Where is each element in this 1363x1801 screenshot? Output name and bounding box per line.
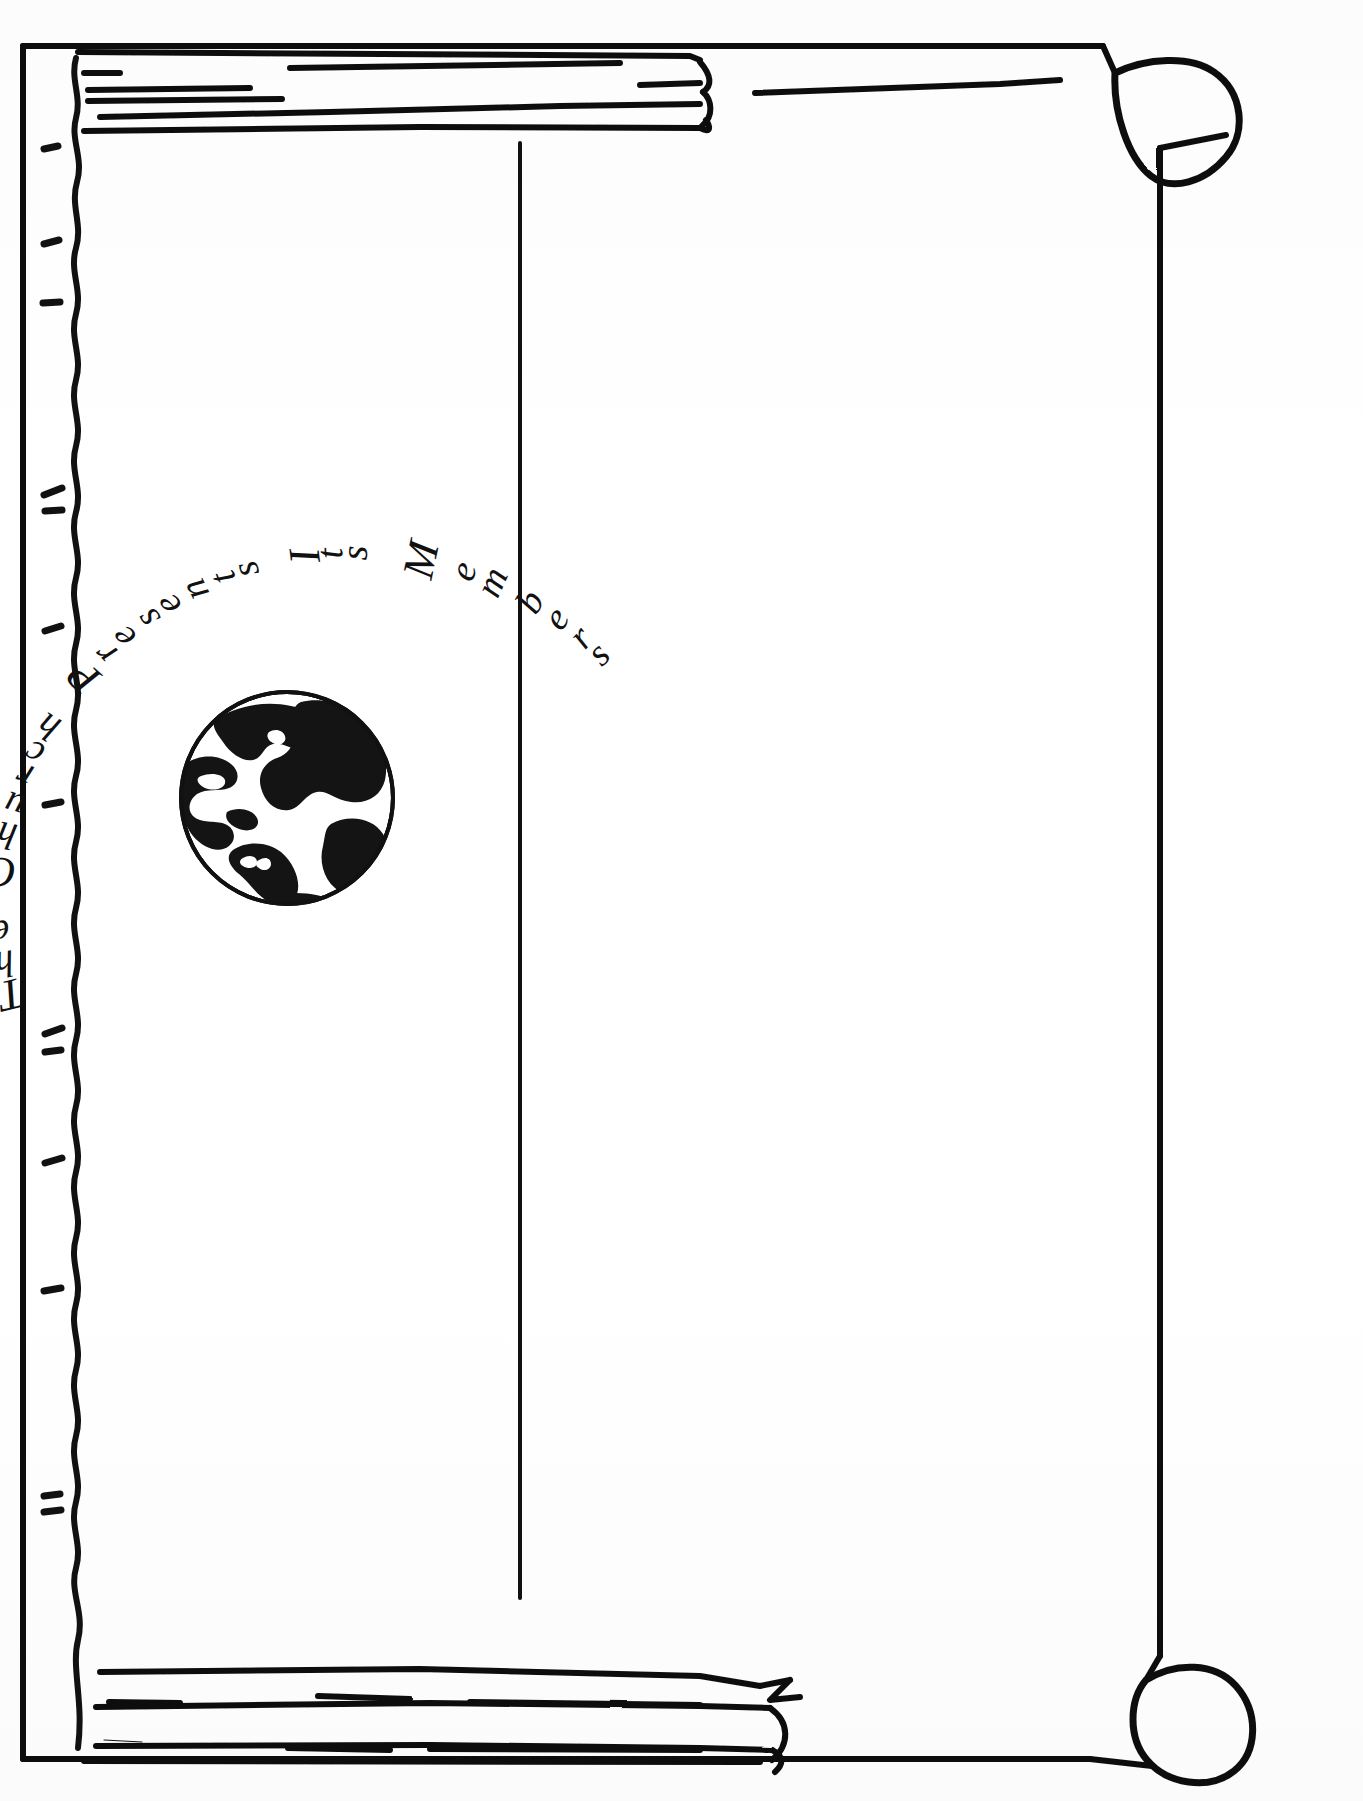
globe-illustration bbox=[147, 658, 427, 938]
page-artwork: TheChurchPresentsItsMembers bbox=[0, 0, 1363, 1801]
title-glyph: s bbox=[333, 545, 375, 561]
scanned-page: The Church Presents Its Members bbox=[0, 0, 1363, 1801]
title-glyph: e bbox=[0, 912, 11, 955]
wavy-binding-edge bbox=[74, 58, 80, 1748]
